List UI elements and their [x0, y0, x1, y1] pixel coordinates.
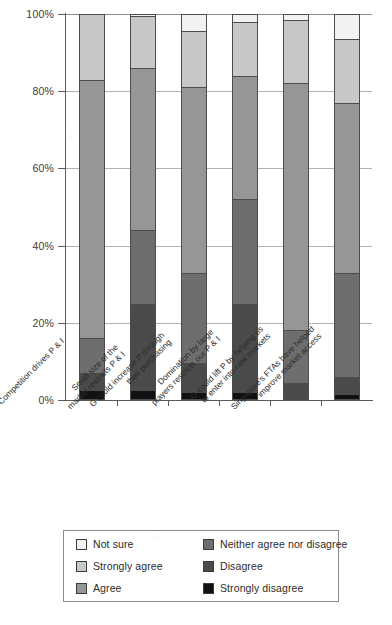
bar-segment [79, 80, 105, 339]
bar-segment [232, 76, 258, 200]
legend-label: Strongly disagree [220, 582, 303, 594]
bar-segment [181, 14, 207, 31]
x-tick-mark [168, 400, 169, 406]
legend-item: Not sure [76, 538, 203, 550]
bar-segment [334, 394, 360, 400]
bar-segment [283, 83, 309, 330]
bar-segment [283, 398, 309, 400]
y-tick-mark [58, 246, 66, 247]
legend-item: Strongly disagree [203, 582, 348, 594]
bar-segment [283, 383, 309, 398]
bar-segment [232, 14, 258, 22]
y-tick-label: 20% [32, 318, 54, 328]
y-tick-mark [58, 14, 66, 15]
legend-swatch [76, 583, 87, 594]
x-tick-mark [219, 400, 220, 406]
x-tick-mark [270, 400, 271, 406]
legend-swatch [203, 583, 214, 594]
bar-segment [334, 14, 360, 39]
bar-segment [334, 103, 360, 273]
bar-segment [334, 273, 360, 377]
legend-swatch [76, 539, 87, 550]
bar-segment [181, 31, 207, 87]
bar-segment [232, 199, 258, 303]
legend-swatch [76, 561, 87, 572]
legend-grid: Not sureNeither agree nor disagreeStrong… [64, 531, 338, 601]
legend-swatch [203, 539, 214, 550]
bar-6 [334, 14, 360, 400]
bar-segment [334, 377, 360, 394]
bar-1 [79, 14, 105, 400]
legend-label: Agree [93, 582, 122, 594]
bar-segment [334, 39, 360, 103]
x-tick-mark [321, 400, 322, 406]
bar-segment [181, 87, 207, 272]
y-tick-label: 80% [32, 86, 54, 96]
legend-item: Neither agree nor disagree [203, 538, 348, 550]
bar-segment [232, 22, 258, 76]
legend: Not sureNeither agree nor disagreeStrong… [63, 530, 339, 602]
legend-swatch [203, 561, 214, 572]
bar-segment [130, 68, 156, 230]
bar-segment [283, 20, 309, 84]
legend-label: Disagree [220, 560, 263, 572]
legend-item: Strongly agree [76, 560, 203, 572]
legend-item: Agree [76, 582, 203, 594]
legend-item: Disagree [203, 560, 348, 572]
bar-segment [79, 14, 105, 80]
y-tick-label: 60% [32, 163, 54, 173]
legend-label: Strongly agree [93, 560, 163, 572]
legend-label: Neither agree nor disagree [220, 538, 348, 550]
y-tick-label: 100% [26, 9, 54, 19]
y-tick-mark [58, 323, 66, 324]
bar-segment [130, 16, 156, 68]
legend-label: Not sure [93, 538, 133, 550]
y-tick-mark [58, 91, 66, 92]
stacked-bar-chart: 0%20%40%60%80%100% Competition drives P … [0, 0, 392, 625]
y-tick-label: 40% [32, 241, 54, 251]
y-tick-mark [58, 168, 66, 169]
bar-segment [130, 230, 156, 303]
